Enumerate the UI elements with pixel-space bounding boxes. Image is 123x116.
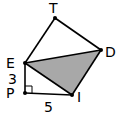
label-t: T	[48, 0, 58, 16]
segment-te	[25, 18, 55, 63]
label-i: I	[77, 89, 81, 105]
segment-td	[55, 18, 101, 50]
point-p	[23, 91, 27, 95]
point-t	[53, 16, 57, 20]
point-e	[23, 61, 27, 65]
segment-pi	[25, 93, 72, 95]
point-d	[99, 48, 103, 52]
point-i	[70, 93, 74, 97]
label-d: D	[105, 44, 116, 60]
measure-pi: 5	[44, 99, 53, 115]
measure-ep: 3	[8, 71, 17, 87]
label-p: P	[6, 85, 14, 101]
geometry-diagram: T D E P I 3 5	[0, 0, 123, 116]
label-e: E	[6, 55, 15, 71]
